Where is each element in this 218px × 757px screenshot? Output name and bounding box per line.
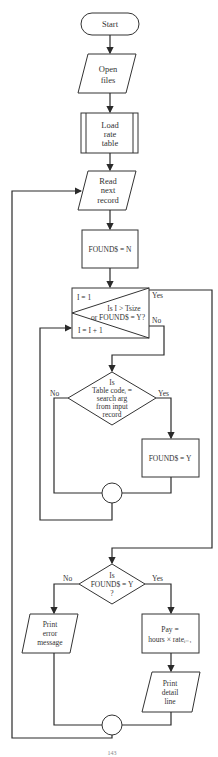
svg-text:table: table (102, 138, 119, 148)
svg-text:detail: detail (162, 688, 179, 697)
svg-text:message: message (37, 638, 63, 647)
compare-yes-label: Yes (158, 389, 169, 398)
svg-text:I = I + 1: I = I + 1 (78, 326, 103, 335)
svg-text:line: line (164, 697, 176, 706)
svg-text:FOUND$ = Y: FOUND$ = Y (149, 454, 192, 463)
compute-pay-process: Pay = hours × rateᵢ₋₁ (142, 614, 199, 653)
svg-text:Is: Is (109, 571, 114, 580)
svg-text:or FOUND$ = Y?: or FOUND$ = Y? (91, 313, 146, 322)
check-yes-label: Yes (152, 574, 163, 583)
compare-no-label: No (50, 389, 59, 398)
loop-no-label: No (152, 316, 161, 325)
set-found-process: FOUND$ = Y (142, 439, 199, 477)
svg-text:Open: Open (99, 64, 118, 74)
inner-connector (102, 483, 122, 503)
read-next-record-io: Read next record (78, 171, 136, 210)
check-no-label: No (63, 574, 72, 583)
page-number: 143 (108, 750, 117, 756)
svg-text:Start: Start (102, 19, 119, 29)
check-found-decision: Is FOUND$ = Y ? (79, 564, 145, 604)
svg-text:Print: Print (43, 620, 59, 629)
svg-text:record: record (102, 410, 121, 419)
svg-text:FOUND$ = Y: FOUND$ = Y (91, 580, 134, 589)
svg-text:next: next (101, 185, 116, 195)
init-found-process: FOUND$ = N (82, 230, 138, 268)
load-rate-table-process: Load rate table (81, 113, 138, 153)
flowchart: Start Open files Load rate table Read ne… (0, 0, 218, 757)
svg-text:Is I > Tsize: Is I > Tsize (107, 304, 141, 313)
loop-yes-label: Yes (152, 291, 163, 300)
print-error-io: Print error message (22, 614, 78, 653)
print-detail-io: Print detail line (142, 672, 200, 712)
start-terminal: Start (81, 13, 139, 35)
svg-text:Pay =: Pay = (161, 625, 178, 634)
bottom-connector (102, 715, 122, 735)
svg-text:error: error (43, 629, 58, 638)
svg-text:Print: Print (163, 679, 179, 688)
compare-decision: Is Table codeᵢ = search arg from input r… (68, 372, 156, 425)
svg-text:record: record (97, 195, 119, 205)
svg-text:files: files (101, 75, 116, 85)
loop-box: I = 1 Is I > Tsize or FOUND$ = Y? I = I … (72, 288, 149, 338)
svg-text:hours × rateᵢ₋₁: hours × rateᵢ₋₁ (148, 635, 192, 644)
svg-text:FOUND$ = N: FOUND$ = N (89, 245, 133, 254)
open-files-io: Open files (78, 54, 136, 93)
svg-text:I = 1: I = 1 (77, 293, 91, 302)
